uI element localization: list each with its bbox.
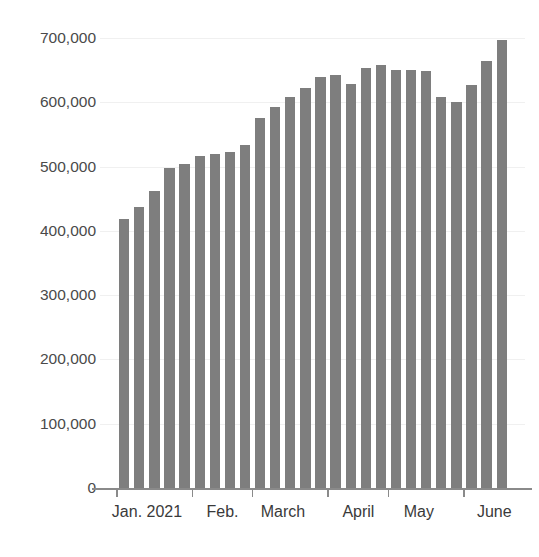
bar xyxy=(225,152,235,488)
bar xyxy=(406,70,416,489)
y-axis-tick-label: 600,000 xyxy=(10,94,96,110)
x-axis-tick-label: June xyxy=(477,503,512,521)
chart-title xyxy=(60,0,490,6)
x-axis-tick xyxy=(116,489,118,497)
plot-area xyxy=(100,38,525,488)
bar xyxy=(346,84,356,488)
bar xyxy=(270,107,280,488)
bar xyxy=(119,219,129,488)
bar xyxy=(421,71,431,488)
x-axis-tick xyxy=(252,489,254,497)
y-axis-tick-label: 200,000 xyxy=(10,351,96,367)
x-axis-tick xyxy=(327,489,329,497)
bar xyxy=(481,61,491,489)
x-axis-tick-label: May xyxy=(404,503,434,521)
bar xyxy=(391,70,401,488)
bar xyxy=(195,156,205,488)
bar xyxy=(285,97,295,489)
bar xyxy=(300,88,310,488)
bar xyxy=(255,118,265,488)
bar xyxy=(240,145,250,488)
x-axis-tick xyxy=(192,489,194,497)
bar xyxy=(466,85,476,488)
bar xyxy=(134,207,144,488)
bar xyxy=(451,102,461,488)
bar xyxy=(315,77,325,488)
x-axis-tick xyxy=(463,489,465,497)
y-axis-tick-label: 500,000 xyxy=(10,159,96,175)
x-axis-tick-label: Jan. 2021 xyxy=(112,503,182,521)
x-axis-tick-label: Feb. xyxy=(206,503,238,521)
bar xyxy=(330,75,340,488)
bar-series xyxy=(100,38,525,488)
y-axis-tick-label: 700,000 xyxy=(10,30,96,46)
bar-chart: 700,000600,000500,000400,000300,000200,0… xyxy=(0,0,539,557)
y-axis-tick-label: 0 xyxy=(10,480,96,496)
bar xyxy=(361,68,371,488)
bar xyxy=(164,168,174,488)
x-axis-line xyxy=(92,488,532,490)
bar xyxy=(210,154,220,488)
bar xyxy=(436,97,446,489)
y-axis-tick-label: 400,000 xyxy=(10,223,96,239)
bar xyxy=(149,191,159,488)
y-axis: 700,000600,000500,000400,000300,000200,0… xyxy=(0,0,96,557)
x-axis-tick-label: April xyxy=(342,503,374,521)
y-axis-tick-label: 300,000 xyxy=(10,287,96,303)
bar xyxy=(179,164,189,488)
x-axis-tick-label: March xyxy=(261,503,305,521)
bar xyxy=(497,40,507,488)
bar xyxy=(376,65,386,488)
x-axis-tick xyxy=(388,489,390,497)
y-axis-tick-label: 100,000 xyxy=(10,416,96,432)
